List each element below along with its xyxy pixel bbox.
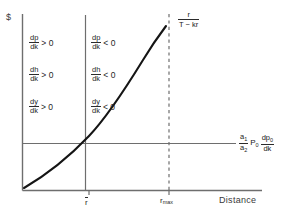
fraction-numerator: dy [29, 98, 39, 106]
x-tick-label-r-bar: r [85, 197, 88, 207]
fraction-numerator: dh [91, 66, 101, 74]
fraction-numerator: dy [91, 98, 101, 106]
a-denominator-sub: 2 [244, 147, 247, 153]
y-axis-label: $ [6, 13, 11, 22]
horizontal-line-label: a1 a2 P0 dp0 dk [239, 133, 274, 155]
left-condition-dp-dk: dp dk > 0 [29, 34, 55, 52]
economics-diagram: $ Distance r rmax dp dk > 0 dh dk > 0 dy… [0, 0, 300, 221]
relation-symbol: < 0 [101, 39, 117, 48]
fraction-denominator: dk [91, 106, 101, 116]
right-condition-dy-dk: dy dk < 0 [91, 98, 117, 116]
fraction-dp-dk: dp dk [91, 34, 101, 52]
fraction-dh-dk: dh dk [91, 66, 101, 84]
fraction-numerator: a1 [239, 133, 248, 143]
term-p-sub: 0 [256, 142, 259, 148]
fraction-denominator: dk [29, 74, 39, 84]
fraction-numerator: dp [29, 34, 39, 42]
fraction-a1-over-a2: a1 a2 [239, 133, 248, 155]
fraction-numerator: dp [91, 34, 101, 42]
fraction-numerator: r [178, 11, 199, 19]
fraction-numerator: dh [29, 66, 39, 74]
x-tick-label-r-max: rmax [160, 197, 173, 206]
relation-symbol: > 0 [39, 103, 55, 112]
fraction-dp0-over-dk: dp0 dk [261, 134, 274, 154]
fraction-r-over-t-minus-kr: r T − kr [178, 11, 199, 29]
left-condition-dh-dk: dh dk > 0 [29, 66, 55, 84]
relation-symbol: > 0 [39, 39, 55, 48]
fraction-dy-dk: dy dk [29, 98, 39, 116]
fraction-dp-dk: dp dk [29, 34, 39, 52]
r-max-subscript: max [163, 199, 173, 205]
fraction-denominator: dk [91, 74, 101, 84]
a-numerator-sub: 1 [244, 136, 247, 142]
x-axis-label: Distance [219, 196, 256, 205]
fraction-denominator: dk [261, 144, 274, 154]
deriv-numerator-base: dp [262, 133, 270, 142]
right-condition-dp-dk: dp dk < 0 [91, 34, 117, 52]
r-bar-base: r [85, 197, 88, 207]
fraction-dy-dk: dy dk [91, 98, 101, 116]
fraction-numerator: dp0 [261, 134, 274, 144]
left-condition-dy-dk: dy dk > 0 [29, 98, 55, 116]
relation-symbol: < 0 [101, 103, 117, 112]
term-p-zero: P0 [250, 139, 258, 149]
fraction-denominator: dk [91, 42, 101, 52]
fraction-denominator: T − kr [178, 19, 199, 29]
fraction-denominator: a2 [239, 143, 248, 155]
right-condition-dh-dk: dh dk < 0 [91, 66, 117, 84]
fraction-dh-dk: dh dk [29, 66, 39, 84]
deriv-numerator-sub: 0 [270, 137, 273, 143]
fraction-denominator: dk [29, 42, 39, 52]
asymptote-label: r T − kr [178, 11, 199, 29]
relation-symbol: > 0 [39, 71, 55, 80]
fraction-denominator: dk [29, 106, 39, 116]
relation-symbol: < 0 [101, 71, 117, 80]
